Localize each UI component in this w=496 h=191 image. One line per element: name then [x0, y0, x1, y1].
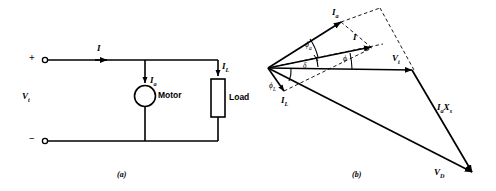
dashed-Ia-extension — [341, 8, 380, 22]
phasor-label-IL: IL — [281, 96, 288, 107]
phasor-Vt — [268, 68, 412, 70]
motor-symbol — [135, 86, 156, 107]
terminal-plus-label: + — [29, 53, 35, 63]
line-current-label: I — [97, 44, 101, 53]
phasor-label-VD: VD — [434, 168, 444, 179]
motor-label: Motor — [158, 91, 182, 100]
terminal-minus-label: − — [29, 134, 35, 144]
angle-label-phi-a: ϕa — [305, 41, 312, 51]
load-resistor-symbol — [211, 79, 225, 117]
angle-label-phi-L: ϕL — [269, 82, 276, 92]
motor-current-label: Ia — [150, 76, 157, 87]
phasor-label-IaXs: IaXs — [437, 103, 452, 114]
caption-a: (a) — [117, 170, 126, 179]
angle-label-delta: δ — [303, 62, 307, 70]
source-voltage-label: Vt — [22, 92, 30, 103]
terminal-negative — [42, 138, 47, 143]
terminal-positive — [42, 57, 47, 62]
phasor-label-Vt: Vt — [392, 54, 400, 65]
circuit-group — [42, 57, 225, 143]
load-label: Load — [229, 93, 249, 102]
load-current-label: IL — [222, 62, 229, 73]
caption-b: (b) — [352, 170, 361, 179]
phasor-group — [268, 8, 472, 172]
figure-container: + − Vt I Ia Motor IL Load Ia I Vt IL IaX… — [0, 0, 496, 191]
arc-phi — [350, 53, 352, 69]
phasor-label-Ia: Ia — [332, 8, 339, 19]
phasor-label-I: I — [353, 33, 357, 42]
angle-label-phi: ϕ — [343, 55, 347, 63]
